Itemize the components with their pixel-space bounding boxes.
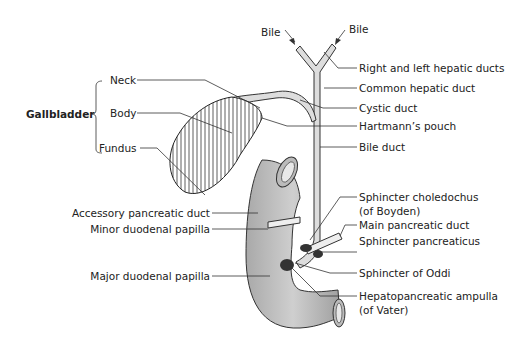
hartmanns-pouch-label: Hartmann’s pouch	[359, 120, 456, 132]
common-hepatic-duct-label: Common hepatic duct	[359, 82, 475, 94]
of-vater-label: (of Vater)	[359, 304, 408, 316]
minor-duodenal-papilla-label: Minor duodenal papilla	[90, 223, 210, 235]
bile-right-label: Bile	[349, 23, 369, 35]
sphincter-pancreaticus-label: Sphincter pancreaticus	[359, 235, 480, 247]
fundus-label: Fundus	[99, 142, 137, 154]
bile-duct-label: Bile duct	[359, 141, 405, 153]
accessory-pancreatic-duct-label: Accessory pancreatic duct	[72, 207, 210, 219]
anatomy-drawing	[0, 0, 522, 359]
sphincter-of-oddi-label: Sphincter of Oddi	[359, 267, 451, 279]
hepatopancreatic-ampulla-label: Hepatopancreatic ampulla	[359, 290, 498, 302]
main-pancreatic-duct-label: Main pancreatic duct	[359, 219, 469, 231]
neck-label: Neck	[110, 74, 136, 86]
bile-left-label: Bile	[261, 26, 281, 38]
cystic-duct-label: Cystic duct	[359, 102, 417, 114]
gallbladder-label: Gallbladder	[26, 108, 94, 120]
major-duodenal-papilla-label: Major duodenal papilla	[90, 270, 210, 282]
body-label: Body	[110, 107, 137, 119]
gallbladder	[170, 97, 262, 194]
hepatic-ducts-label: Right and left hepatic ducts	[359, 62, 504, 74]
sphincter-choledochus-label: Sphincter choledochus	[359, 191, 478, 203]
of-boyden-label: (of Boyden)	[359, 205, 420, 217]
